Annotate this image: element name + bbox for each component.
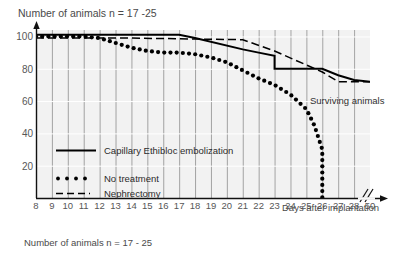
x-tick-label: 8 xyxy=(33,200,38,211)
data-point xyxy=(303,106,307,110)
x-tick-label: 21 xyxy=(237,200,248,211)
data-point xyxy=(211,56,215,60)
data-point xyxy=(126,45,130,49)
data-point xyxy=(217,58,221,62)
data-point xyxy=(320,189,324,193)
data-point xyxy=(251,73,255,77)
x-tick-label: 12 xyxy=(94,200,105,211)
data-point xyxy=(284,90,288,94)
data-point xyxy=(279,87,283,91)
y-tick-label: 100 xyxy=(16,31,33,42)
data-point xyxy=(320,164,324,168)
data-point xyxy=(114,41,118,45)
data-point xyxy=(289,93,293,97)
data-point xyxy=(223,60,227,64)
data-point xyxy=(175,51,179,55)
x-tick-label: 18 xyxy=(190,200,201,211)
data-point xyxy=(320,183,324,187)
data-point xyxy=(312,122,316,126)
data-point xyxy=(262,79,266,83)
data-point xyxy=(229,62,233,66)
dashed-line-key xyxy=(54,186,98,201)
data-point xyxy=(240,68,244,72)
data-point xyxy=(162,51,166,55)
data-point xyxy=(320,158,324,162)
x-tick-label: 17 xyxy=(174,200,185,211)
x-tick-label: 11 xyxy=(79,200,89,211)
x-tick-label: 10 xyxy=(63,200,74,211)
data-point xyxy=(144,49,148,53)
data-point xyxy=(205,55,209,59)
data-point xyxy=(234,65,238,69)
x-tick-label: 22 xyxy=(253,200,264,211)
data-point xyxy=(294,98,298,102)
x-tick-label: 14 xyxy=(126,200,137,211)
series-ethibloc xyxy=(36,35,370,82)
data-point xyxy=(298,102,302,106)
figure-caption: Number of animals n = 17 - 25 xyxy=(24,238,152,248)
x-tick-label: 19 xyxy=(206,200,217,211)
y-tick-label: 60 xyxy=(22,96,33,107)
data-point xyxy=(306,111,310,115)
data-point xyxy=(138,47,142,51)
data-point xyxy=(150,49,154,53)
x-axis-caption: Days after implantation xyxy=(282,203,379,213)
series-nephrectomy xyxy=(36,38,370,82)
legend-label-nephrectomy: Nephrectomy xyxy=(104,188,161,199)
legend-label-ethibloc: Capillary Ethibloc embolization xyxy=(104,145,233,156)
data-point xyxy=(274,83,278,87)
y-tick-label: 80 xyxy=(22,64,33,75)
y-tick-label: 40 xyxy=(22,128,33,139)
data-point xyxy=(320,152,324,156)
solid-line-key xyxy=(54,143,98,158)
data-point xyxy=(187,52,191,56)
x-tick-label: 16 xyxy=(158,200,169,211)
data-point xyxy=(314,128,318,132)
y-tick-label: 20 xyxy=(22,161,33,172)
chart-figure: Number of animals n = 17 -25 10080604020… xyxy=(0,0,406,256)
data-point xyxy=(156,50,160,54)
data-point xyxy=(320,195,324,198)
x-tick-label: 20 xyxy=(222,200,233,211)
data-point xyxy=(199,53,203,57)
data-point xyxy=(132,46,136,50)
y-axis-tick-labels: 10080604020 xyxy=(0,30,33,198)
x-tick-label: 13 xyxy=(110,200,121,211)
data-point xyxy=(193,52,197,56)
y-axis-arrowhead xyxy=(33,21,39,29)
data-point xyxy=(168,51,172,55)
data-point xyxy=(320,170,324,174)
x-tick-label: 23 xyxy=(269,200,280,211)
data-point xyxy=(316,134,320,138)
surviving-animals-annotation: Surviving animals xyxy=(310,96,384,106)
data-point xyxy=(309,117,313,121)
data-point xyxy=(108,39,112,43)
chart-title: Number of animals n = 17 -25 xyxy=(18,8,157,19)
data-point xyxy=(256,76,260,80)
data-point xyxy=(120,43,124,47)
data-point xyxy=(181,51,185,55)
legend-label-no-treatment: No treatment xyxy=(104,173,159,184)
data-point xyxy=(320,177,324,181)
x-tick-label: 9 xyxy=(49,200,54,211)
data-point xyxy=(318,140,322,144)
data-point xyxy=(245,71,249,75)
x-tick-label: 15 xyxy=(142,200,153,211)
data-point xyxy=(268,81,272,85)
data-point xyxy=(320,146,324,150)
dotted-line-key xyxy=(54,171,98,186)
